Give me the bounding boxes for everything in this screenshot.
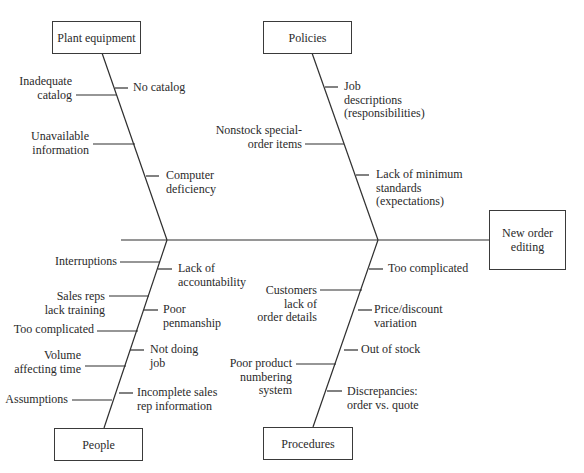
cause-label: Lack of minimum standards (expectations) xyxy=(376,168,463,209)
cause-label: Computer deficiency xyxy=(166,169,216,196)
cause-label: Inadequate catalog xyxy=(19,75,72,102)
cause-label: Poor product numbering system xyxy=(230,357,292,398)
cause-label: Sales reps lack training xyxy=(45,290,105,317)
cause-label: Lack of accountability xyxy=(178,262,246,289)
cause-label: Not doing job xyxy=(150,343,198,370)
category-box-policies: Policies xyxy=(263,21,352,54)
cause-label: Volume affecting time xyxy=(14,349,81,376)
category-box-people: People xyxy=(54,428,143,461)
cause-label: Out of stock xyxy=(361,343,420,357)
cause-label: Poor penmanship xyxy=(163,303,221,330)
cause-label: Assumptions xyxy=(5,393,68,407)
cause-label: Discrepancies: order vs. quote xyxy=(347,385,419,412)
category-label-people: People xyxy=(82,438,115,452)
fishbone-diagram: Plant equipment Policies People Procedur… xyxy=(0,0,584,473)
cause-label: Too complicated xyxy=(14,323,94,337)
cause-label: Interruptions xyxy=(55,255,117,269)
cause-label: Job descriptions (responsibilities) xyxy=(344,80,425,121)
cause-label: Customers lack of order details xyxy=(257,284,317,325)
category-label-procedures: Procedures xyxy=(281,437,334,451)
category-box-procedures: Procedures xyxy=(263,427,353,460)
category-label-plant-equipment: Plant equipment xyxy=(57,31,135,45)
cause-label: Too complicated xyxy=(388,262,468,276)
cause-label: Price/discount variation xyxy=(374,303,443,330)
cause-label: Unavailable information xyxy=(31,130,89,157)
cause-label: Incomplete sales rep information xyxy=(137,386,217,413)
effect-box: New order editing xyxy=(489,210,566,270)
category-box-plant-equipment: Plant equipment xyxy=(52,21,141,54)
cause-label: No catalog xyxy=(133,81,185,95)
cause-label: Nonstock special- order items xyxy=(216,124,302,151)
effect-label: New order editing xyxy=(502,226,553,254)
category-label-policies: Policies xyxy=(289,31,327,45)
